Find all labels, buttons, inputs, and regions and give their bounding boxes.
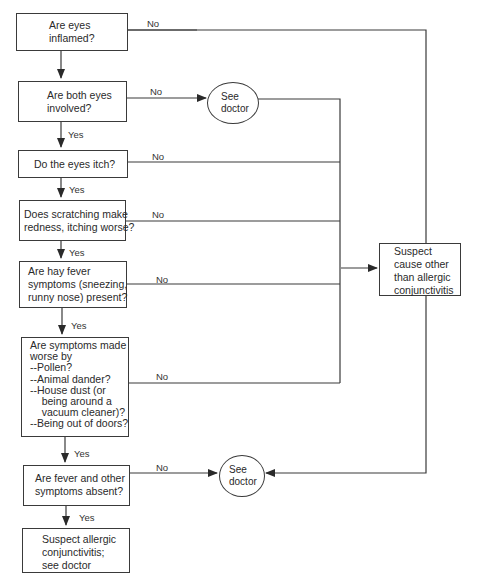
edge-label-no: No [150,86,162,97]
edge-label-yes: Yes [68,129,84,140]
node-symptoms-worse-by: Are symptoms made worse by --Pollen? --A… [21,337,129,437]
node-text: See doctor [229,464,257,488]
node-eyes-itch: Do the eyes itch? [18,150,128,178]
edge-label-no: No [147,18,159,29]
node-eyes-inflamed: Are eyes inflamed? [16,13,128,51]
edge-label-no: No [152,209,164,220]
node-text: Do the eyes itch? [34,158,115,171]
node-text: See doctor [221,91,249,115]
edge-label-yes: Yes [74,448,90,459]
node-suspect-allergic: Suspect allergic conjunctivitis; see doc… [22,528,130,573]
node-suspect-other-cause: Suspect cause other than allergic conjun… [379,243,461,296]
edge-label-yes: Yes [71,320,87,331]
edge-label-no: No [156,274,168,285]
node-both-eyes-involved: Are both eyes involved? [18,81,127,122]
node-text: Suspect allergic conjunctivitis; see doc… [42,533,116,572]
node-hay-fever: Are hay fever symptoms (sneezing, runny … [19,261,127,308]
edge-label-no: No [152,151,164,162]
edge-label-no: No [156,462,168,473]
node-see-doctor-2: See doctor [219,455,265,497]
node-text: Are both eyes involved? [47,89,112,115]
node-text: Suspect cause other than allergic conjun… [394,245,454,297]
edge-label-no: No [156,371,168,382]
node-text: Are symptoms made worse by --Pollen? --A… [30,340,128,430]
node-text: Are hay fever symptoms (sneezing, runny … [28,265,127,304]
node-text: Are fever and other symptoms absent? [35,472,125,498]
node-text: Are eyes inflamed? [49,19,95,45]
edge-label-yes: Yes [69,247,85,258]
node-scratching-worse: Does scratching make redness, itching wo… [19,200,126,241]
edge-label-yes: Yes [79,512,95,523]
node-text: Does scratching make redness, itching wo… [24,208,134,234]
edge-label-yes: Yes [69,184,85,195]
node-see-doctor-1: See doctor [207,82,259,124]
node-fever-absent: Are fever and other symptoms absent? [23,465,130,506]
